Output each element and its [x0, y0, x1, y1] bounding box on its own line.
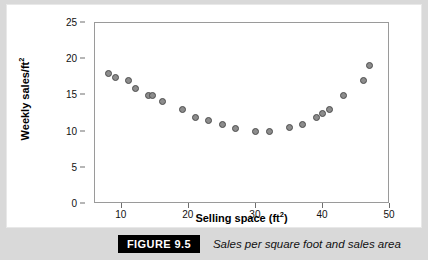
- y-axis-tick-mark: [80, 203, 85, 204]
- data-point: [252, 128, 259, 135]
- y-axis-tick-label: 20: [66, 53, 77, 64]
- y-axis-tick-label: 10: [66, 125, 77, 136]
- figure-panel: Weekly sales/ft2 0510152025 1020304050 S…: [7, 5, 421, 227]
- x-axis-tick-mark: [255, 203, 256, 208]
- data-point: [112, 74, 119, 81]
- x-axis-title-text: Selling space (ft: [195, 212, 279, 224]
- y-axis-tick-label: 25: [66, 17, 77, 28]
- y-axis-tick-mark: [80, 166, 85, 167]
- data-point: [219, 121, 226, 128]
- data-point: [286, 124, 293, 131]
- y-axis-ticks: 0510152025: [7, 22, 87, 203]
- data-point: [299, 121, 306, 128]
- plot-frame: [94, 22, 389, 203]
- data-point: [340, 92, 347, 99]
- y-axis-tick-mark: [80, 94, 85, 95]
- figure-caption-text: Sales per square foot and sales area: [213, 238, 401, 250]
- data-point: [326, 106, 333, 113]
- x-axis-tick-mark: [322, 203, 323, 208]
- data-point: [149, 92, 156, 99]
- x-axis-tick-mark: [121, 203, 122, 208]
- y-axis-tick-label: 15: [66, 89, 77, 100]
- y-axis-tick-mark: [80, 58, 85, 59]
- data-point: [192, 114, 199, 121]
- y-axis-tick-mark: [80, 22, 85, 23]
- data-point: [266, 128, 273, 135]
- y-axis-tick-label: 0: [71, 198, 77, 209]
- data-point: [366, 62, 373, 69]
- x-axis-tick-mark: [389, 203, 390, 208]
- data-point: [360, 77, 367, 84]
- figure-page: Weekly sales/ft2 0510152025 1020304050 S…: [0, 0, 428, 260]
- x-axis-title: Selling space (ft2): [94, 212, 389, 224]
- data-point: [179, 106, 186, 113]
- data-point: [159, 98, 166, 105]
- data-point: [232, 125, 239, 132]
- y-axis-tick-mark: [80, 130, 85, 131]
- figure-caption: FIGURE 9.5 Sales per square foot and sal…: [7, 232, 421, 256]
- x-axis-tick-mark: [188, 203, 189, 208]
- data-point: [205, 117, 212, 124]
- y-axis-tick-label: 5: [71, 161, 77, 172]
- data-point: [105, 70, 112, 77]
- data-point: [132, 85, 139, 92]
- figure-number-badge: FIGURE 9.5: [118, 235, 200, 253]
- x-axis-title-tail: ): [284, 212, 288, 224]
- data-point: [125, 77, 132, 84]
- scatter-plot-area: [95, 23, 388, 202]
